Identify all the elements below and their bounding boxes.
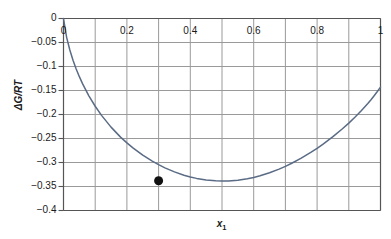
x-tick-label: 0 xyxy=(44,25,84,36)
y-axis-title: ΔG/RT xyxy=(8,55,28,135)
x-tick-label: 0.4 xyxy=(170,25,210,36)
chart-figure: ΔG/RT x1 0−0.05−0.1−0.15−0.2−0.25−0.3−0.… xyxy=(0,0,391,239)
minimum-point xyxy=(154,176,163,185)
y-tick-label: −0.05 xyxy=(31,36,56,47)
y-tick-label: −0.15 xyxy=(31,84,56,95)
y-tick-label: −0.1 xyxy=(37,60,57,71)
y-tick-label: −0.35 xyxy=(31,180,56,191)
x-axis-title: x1 xyxy=(63,218,380,232)
x-tick-label: 0.2 xyxy=(107,25,147,36)
data-markers xyxy=(154,176,163,185)
y-tick-label: −0.3 xyxy=(37,156,57,167)
y-tick-label: −0.4 xyxy=(37,204,57,215)
y-tick-marks xyxy=(59,19,64,211)
plot-area xyxy=(0,0,391,239)
y-tick-label: 0 xyxy=(51,12,57,23)
x-tick-label: 1 xyxy=(361,25,391,36)
y-tick-label: −0.25 xyxy=(31,132,56,143)
x-tick-label: 0.8 xyxy=(297,25,337,36)
x-tick-label: 0.6 xyxy=(234,25,274,36)
y-tick-label: −0.2 xyxy=(37,108,57,119)
x-axis-title-subscript: 1 xyxy=(222,223,226,232)
y-axis-title-text: ΔG/RT xyxy=(13,80,24,110)
